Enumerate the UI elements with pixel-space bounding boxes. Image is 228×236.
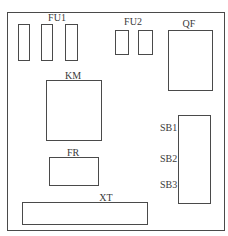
fu1-fuse-3 bbox=[65, 24, 78, 61]
qf-label: QF bbox=[183, 19, 196, 29]
fu1-label: FU1 bbox=[48, 13, 66, 23]
sb1-label: SB1 bbox=[160, 123, 177, 133]
fu2-label: FU2 bbox=[124, 17, 142, 27]
fu1-fuse-1 bbox=[18, 24, 30, 61]
qf-breaker bbox=[168, 30, 213, 91]
fu2-fuse-1 bbox=[115, 30, 129, 55]
fu2-fuse-2 bbox=[138, 30, 153, 55]
sb2-label: SB2 bbox=[160, 154, 177, 164]
fr-relay bbox=[49, 157, 99, 186]
sb3-label: SB3 bbox=[160, 180, 177, 190]
km-contactor bbox=[46, 80, 102, 141]
fu1-fuse-2 bbox=[41, 24, 53, 61]
sb-button-box bbox=[178, 115, 211, 204]
xt-terminal-block bbox=[22, 202, 148, 225]
